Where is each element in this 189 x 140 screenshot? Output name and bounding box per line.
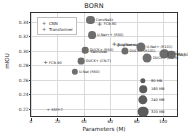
chart-title: BORN [0,2,188,10]
y-tick-label: 0.26 [19,77,29,82]
y-axis-label: mIOU [4,43,10,79]
data-point-cnn[interactable] [88,31,96,39]
y-tick-label: 0.24 [19,92,29,97]
x-axis-label: Parameters (M) [30,126,178,132]
series-legend: + CNN + Transformer [37,17,77,35]
x-tick-label: 0 [30,119,33,124]
legend-item-transformer: + Transformer [40,26,73,32]
legend-label-cnn: CNN [49,21,58,26]
data-point-transformer[interactable]: + [112,42,117,48]
size-legend-dot [140,78,145,83]
x-tick-label: 80 [134,119,140,124]
data-point-label: U-Net++ (R50) [97,33,124,37]
data-point-label: SSFP-T [51,108,63,112]
data-point-label: DUCK+ (CN-T) [86,59,111,63]
size-legend: 80 MB160 MB240 MB320 MB [129,73,175,113]
y-tick-mark [29,109,32,110]
data-point-transformer[interactable]: + [46,108,49,112]
data-point-transformer[interactable]: + [97,21,102,27]
x-tick-label: 40 [81,119,87,124]
size-legend-dot [139,85,147,93]
data-point-label: DeepLabV3+ [177,53,189,57]
y-tick-mark [29,22,32,23]
size-legend-label: 240 MB [151,98,165,102]
data-point-label: SegFormer [118,43,137,47]
data-point-cnn[interactable] [78,58,85,65]
y-tick-label: 0.30 [19,48,29,53]
y-tick-mark [29,65,32,66]
legend-marker-cnn: + [40,21,48,26]
data-point-label: FCB-80 [104,22,117,26]
size-legend-dot [138,106,149,117]
size-legend-dot [138,95,147,104]
x-tick-label: 60 [107,119,113,124]
data-point-label: SwinUNet [90,50,107,54]
x-tick-label: 100 [159,119,167,124]
data-point-cnn[interactable] [71,69,77,75]
data-point-transformer[interactable]: + [84,49,89,55]
chart-figure: BORN mIOU Parameters (M) ConvNeXtU-Net++… [0,0,188,140]
data-point-transformer[interactable]: + [43,61,47,66]
data-point-cnn[interactable] [86,16,94,24]
legend-marker-transformer: + [40,27,48,32]
y-tick-label: 0.28 [19,63,29,68]
plot-area: ConvNeXtU-Net++ (R50)DUCK+ (R50)DUCK+ (C… [30,12,178,117]
legend-label-transformer: Transformer [49,27,73,32]
y-tick-mark [29,51,32,52]
y-tick-label: 0.32 [19,34,29,39]
size-legend-label: 80 MB [151,79,162,83]
size-legend-label: 320 MB [151,110,165,114]
data-point-cnn[interactable] [121,47,128,54]
x-tick-label: 20 [55,119,61,124]
size-legend-label: 160 MB [151,87,165,91]
data-point-cnn[interactable] [143,54,152,63]
data-point-label: U-Net (R50) [79,70,100,74]
y-tick-mark [29,80,32,81]
y-tick-mark [29,94,32,95]
y-tick-label: 0.34 [19,19,29,24]
y-tick-label: 0.22 [19,106,29,111]
y-tick-mark [29,36,32,37]
data-point-label: U-Net+ (R101) [146,45,172,49]
data-point-label: FCB-90 [49,61,62,65]
